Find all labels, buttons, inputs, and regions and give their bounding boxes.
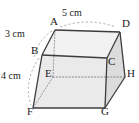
cuboid-drawing — [0, 0, 139, 123]
vertex-label-H: H — [127, 68, 135, 79]
vertex-label-E: E — [45, 68, 52, 79]
vertex-label-F: F — [27, 106, 33, 117]
leader-arc-top — [60, 22, 116, 27]
dimension-label-vertical-edge: 4 cm — [1, 71, 21, 81]
vertex-label-D: D — [122, 18, 130, 29]
vertex-label-G: G — [101, 106, 109, 117]
vertex-label-C: C — [108, 56, 115, 67]
vertex-label-A: A — [50, 16, 58, 27]
dimension-label-top-edge: 5 cm — [62, 8, 82, 18]
cuboid-figure: A B C D E F G H 5 cm 3 cm 4 cm — [0, 0, 139, 123]
vertex-label-B: B — [31, 45, 38, 56]
dimension-label-slant-edge: 3 cm — [5, 29, 25, 39]
face-front — [33, 55, 107, 108]
